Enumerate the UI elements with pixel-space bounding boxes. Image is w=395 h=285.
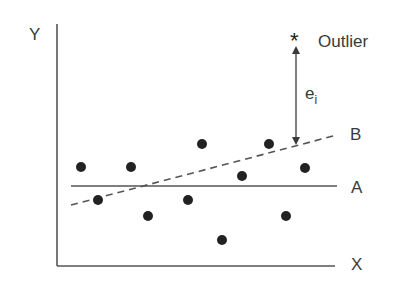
data-points — [76, 139, 310, 245]
data-point — [93, 195, 103, 205]
data-point — [264, 139, 274, 149]
line-a-label: A — [351, 178, 363, 197]
y-axis-label: Y — [29, 25, 40, 44]
line-b-label: B — [350, 125, 361, 144]
data-point — [300, 163, 310, 173]
outlier-asterisk-icon: * — [290, 28, 299, 53]
data-point — [126, 162, 136, 172]
x-axis-label: X — [351, 255, 362, 274]
regression-outlier-diagram: Y X A B * Outlier ei — [0, 0, 395, 285]
data-point — [183, 195, 193, 205]
outlier-label: Outlier — [318, 32, 368, 51]
data-point — [76, 162, 86, 172]
data-point — [281, 211, 291, 221]
data-point — [237, 171, 247, 181]
data-point — [217, 235, 227, 245]
data-point — [197, 139, 207, 149]
data-point — [143, 211, 153, 221]
residual-label: ei — [305, 84, 317, 107]
